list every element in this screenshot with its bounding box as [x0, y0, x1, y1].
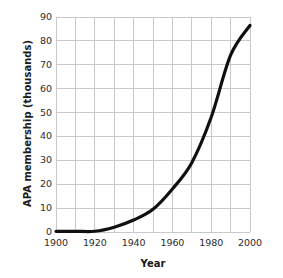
x-tick-label: 2000 — [230, 238, 270, 248]
x-tick-label: 1960 — [152, 238, 192, 248]
x-tick-label: 1940 — [114, 238, 154, 248]
chart-figure: 0102030405060708090 19001920194019601980… — [0, 0, 283, 278]
x-tick-label: 1920 — [75, 238, 115, 248]
x-tick-label: 1900 — [36, 238, 76, 248]
x-axis-tick-labels: 190019201940196019802000 — [0, 0, 283, 278]
x-axis-title: Year — [56, 258, 250, 269]
y-axis-title: APA membership (thousands) — [22, 24, 33, 224]
x-tick-label: 1980 — [191, 238, 231, 248]
